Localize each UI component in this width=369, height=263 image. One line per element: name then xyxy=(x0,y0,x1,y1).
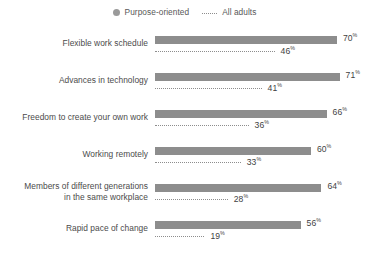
category-label-line: Working remotely xyxy=(83,149,148,159)
bar-fill xyxy=(155,36,337,44)
row-plot: 66%36% xyxy=(155,102,369,139)
dotted-value-label: 41% xyxy=(268,83,282,93)
bar-value-label: 70% xyxy=(343,33,357,43)
chart-rows: Flexible work schedule70%46%Advances in … xyxy=(0,28,369,250)
category-label: Freedom to create your own work xyxy=(0,112,148,123)
category-label: Rapid pace of change xyxy=(0,223,148,234)
chart-row: Working remotely60%33% xyxy=(0,139,369,176)
chart-legend: Purpose-oriented All adults xyxy=(0,4,369,20)
category-label-line: Advances in technology xyxy=(59,75,148,85)
bar-fill xyxy=(155,221,301,229)
bar-fill xyxy=(155,184,321,192)
category-label: Members of different generationsin the s… xyxy=(0,181,148,202)
dotted-value-label: 36% xyxy=(255,120,269,130)
row-plot: 56%19% xyxy=(155,213,369,250)
legend-label: All adults xyxy=(222,7,256,17)
category-label-line: Members of different generations xyxy=(0,181,148,192)
bar-purpose-oriented xyxy=(155,73,340,81)
row-plot: 71%41% xyxy=(155,65,369,102)
bar-value-label: 71% xyxy=(346,70,360,80)
category-label-line: in the same workplace xyxy=(0,192,148,203)
row-plot: 60%33% xyxy=(155,139,369,176)
category-label: Working remotely xyxy=(0,149,148,160)
row-plot: 70%46% xyxy=(155,28,369,65)
dotted-value-label: 33% xyxy=(247,157,261,167)
row-plot: 64%28% xyxy=(155,176,369,213)
bar-value-label: 66% xyxy=(333,107,347,117)
dotted-line-all-adults xyxy=(155,162,241,163)
legend-item-all-adults: All adults xyxy=(202,7,256,17)
category-label-line: Freedom to create your own work xyxy=(22,112,148,122)
bar-purpose-oriented xyxy=(155,221,301,229)
bar-value-label: 64% xyxy=(327,181,341,191)
bar-purpose-oriented xyxy=(155,110,327,118)
chart-row: Rapid pace of change56%19% xyxy=(0,213,369,250)
bar-fill xyxy=(155,73,340,81)
legend-dot-icon xyxy=(113,9,120,16)
dotted-value-label: 19% xyxy=(210,231,224,241)
bar-chart: Purpose-oriented All adults Flexible wor… xyxy=(0,0,369,263)
chart-row: Members of different generationsin the s… xyxy=(0,176,369,213)
dotted-line-all-adults xyxy=(155,125,249,126)
chart-row: Advances in technology71%41% xyxy=(0,65,369,102)
bar-value-label: 60% xyxy=(317,144,331,154)
bar-purpose-oriented xyxy=(155,147,311,155)
dotted-value-label: 46% xyxy=(281,46,295,56)
legend-item-purpose-oriented: Purpose-oriented xyxy=(113,7,190,17)
bar-value-label: 56% xyxy=(307,218,321,228)
bar-fill xyxy=(155,110,327,118)
bar-purpose-oriented xyxy=(155,36,337,44)
category-label: Flexible work schedule xyxy=(0,38,148,49)
category-label-line: Rapid pace of change xyxy=(66,223,148,233)
chart-row: Freedom to create your own work66%36% xyxy=(0,102,369,139)
bar-fill xyxy=(155,147,311,155)
category-label-line: Flexible work schedule xyxy=(63,38,148,48)
category-label: Advances in technology xyxy=(0,75,148,86)
dotted-line-all-adults xyxy=(155,88,262,89)
dotted-line-all-adults xyxy=(155,236,204,237)
dotted-line-all-adults xyxy=(155,199,228,200)
dotted-value-label: 28% xyxy=(234,194,248,204)
legend-dotted-line-icon xyxy=(202,13,217,14)
legend-label: Purpose-oriented xyxy=(125,7,190,17)
dotted-line-all-adults xyxy=(155,51,275,52)
bar-purpose-oriented xyxy=(155,184,321,192)
chart-row: Flexible work schedule70%46% xyxy=(0,28,369,65)
